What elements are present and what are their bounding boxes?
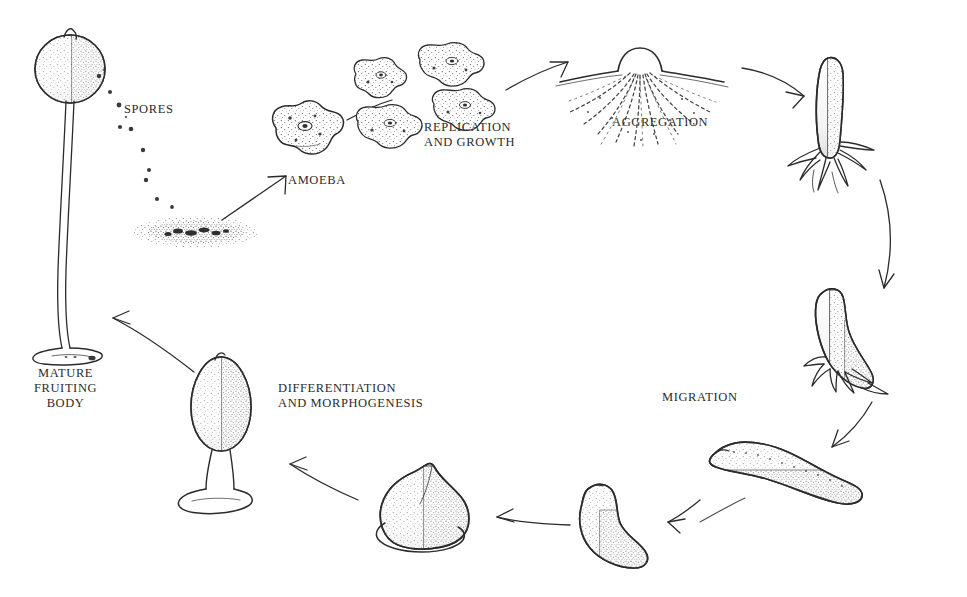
- arrow-migrating-to-culminating: [668, 500, 700, 533]
- stage-standing-aggregate: [788, 56, 874, 193]
- arrow-spores-to-amoeba: [222, 176, 286, 220]
- label-spores: SPORES: [124, 102, 173, 117]
- arrow-aggregation-to-standing: [742, 68, 804, 108]
- label-differentiation-and-morphogenesis: DIFFERENTIATION AND MORPHOGENESIS: [278, 381, 423, 411]
- label-aggregation: AGGREGATION: [612, 115, 708, 130]
- stage-spore-mass: [134, 216, 258, 248]
- stage-migrating-slug: [700, 440, 866, 522]
- stage-early-fruiting-body: [178, 353, 252, 514]
- label-mature-fruiting-body: MATURE FRUITING BODY: [34, 366, 97, 411]
- label-replication-and-growth: REPLICATION AND GROWTH: [424, 120, 515, 150]
- arrow-standing-to-tipped: [879, 180, 894, 288]
- stage-tipped-slug: [804, 289, 888, 394]
- stage-amoeba: [273, 101, 344, 154]
- arrow-culminating-to-hat: [497, 509, 570, 525]
- arrow-tipped-to-migrating: [832, 402, 872, 447]
- stage-culminating-slug: [578, 480, 650, 572]
- stage-mature-fruiting-body: [33, 29, 105, 365]
- life-cycle-illustration: [0, 0, 967, 597]
- arrow-hat-to-early-fruiting-body: [290, 457, 358, 500]
- label-amoeba: AMOEBA: [288, 173, 346, 188]
- spore-trail: [97, 69, 174, 209]
- stage-aggregation: [556, 48, 728, 148]
- life-cycle-diagram: SPORES AMOEBA REPLICATION AND GROWTH AGG…: [0, 0, 967, 597]
- arrow-early-to-mature-fruiting-body: [113, 311, 194, 372]
- label-migration: MIGRATION: [662, 390, 738, 405]
- stage-mexican-hat: [376, 463, 476, 556]
